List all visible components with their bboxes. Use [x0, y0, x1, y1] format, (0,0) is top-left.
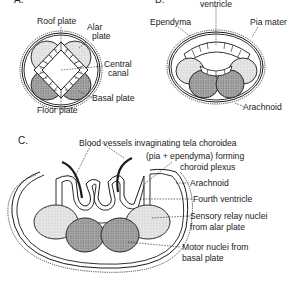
label-motor-nuclei-line1: Motor nuclei from [182, 242, 248, 252]
diagram-c-choroid-plexus [8, 143, 193, 272]
label-arachnoid-c: Arachnoid [190, 178, 229, 188]
label-blood-vessels: Blood vessels invaginating tela choroide… [79, 138, 237, 148]
label-motor-nuclei-line2: basal plate [182, 253, 224, 263]
label-fourth-ventricle-c: Fourth ventricle [193, 194, 252, 204]
label-sensory-nuclei-line1: Sensory relay nuclei [190, 211, 267, 221]
label-sensory-nuclei-line2: from alar plate [190, 222, 245, 232]
label-pia-ependyma: (pia + ependyma) forming [146, 151, 244, 161]
label-choroid-plexus: choroid plexus [180, 162, 235, 172]
